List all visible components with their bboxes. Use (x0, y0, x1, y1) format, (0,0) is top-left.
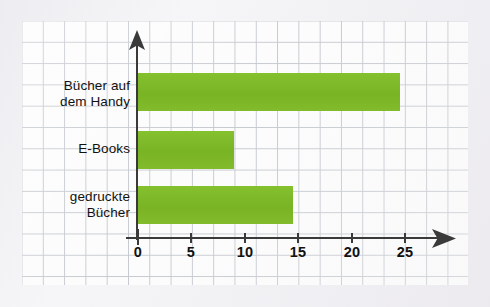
x-tick-label-15: 15 (278, 244, 318, 260)
chart-page: Bücher auf dem Handy E-Books gedruckte B… (0, 0, 490, 307)
x-tick-mark-10 (244, 233, 246, 243)
category-label-0: Bücher auf dem Handy (60, 78, 130, 110)
x-tick-mark-0 (137, 229, 139, 245)
x-tick-label-0: 0 (118, 244, 158, 260)
bar-gedruckte-buecher (138, 186, 293, 224)
x-axis-line (126, 237, 446, 239)
y-axis-line (136, 45, 138, 240)
x-tick-mark-25 (404, 233, 406, 243)
x-tick-label-10: 10 (225, 244, 265, 260)
category-label-1: E-Books (78, 141, 130, 157)
bar-e-books (138, 131, 234, 169)
x-tick-mark-5 (190, 233, 192, 243)
x-tick-mark-15 (297, 233, 299, 243)
x-tick-label-20: 20 (332, 244, 372, 260)
x-tick-mark-20 (351, 233, 353, 243)
category-label-2: gedruckte Bücher (70, 189, 130, 221)
y-axis-arrow-up (128, 30, 146, 50)
bar-chart-plot: Bücher auf dem Handy E-Books gedruckte B… (0, 0, 490, 307)
x-tick-label-5: 5 (171, 244, 211, 260)
bar-buecher-auf-dem-handy (138, 73, 400, 111)
x-axis-arrow-right (432, 229, 456, 248)
x-tick-label-25: 25 (385, 244, 425, 260)
